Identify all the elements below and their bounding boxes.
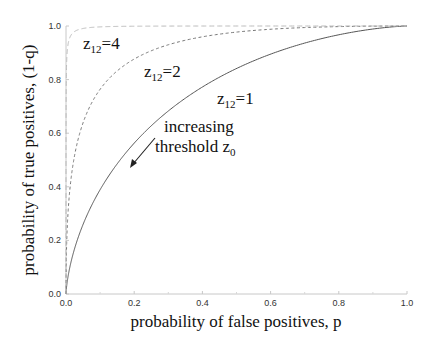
y-tick-label: 0.4 bbox=[48, 182, 61, 192]
threshold-arrow bbox=[130, 138, 155, 168]
x-axis-label: probability of false positives, p bbox=[130, 312, 341, 331]
curve-label-z12-4: z12=4 bbox=[83, 34, 120, 55]
y-tick-label: 0.6 bbox=[48, 128, 61, 138]
x-tick-label: 0.6 bbox=[264, 298, 277, 308]
y-tick-label: 1.0 bbox=[48, 21, 61, 31]
roc-chart: 0.00.20.40.60.81.00.00.20.40.60.81.0 pro… bbox=[0, 0, 438, 348]
annotation-increasing: increasing bbox=[164, 117, 234, 136]
curve-label-z12-1: z12=1 bbox=[217, 89, 254, 110]
y-axis-label: probability of true positives, (1-q) bbox=[19, 45, 38, 276]
y-tick-label: 0.2 bbox=[48, 235, 61, 245]
roc-curve-z12-1 bbox=[66, 26, 407, 294]
roc-curve-z12-2 bbox=[66, 26, 407, 294]
roc-curve-z12-4 bbox=[66, 26, 407, 294]
y-tick-label: 0.8 bbox=[48, 75, 61, 85]
y-tick-label: 0.0 bbox=[48, 289, 61, 299]
x-tick-label: 0.4 bbox=[196, 298, 209, 308]
x-tick-label: 0.0 bbox=[60, 298, 73, 308]
x-tick-label: 0.8 bbox=[333, 298, 346, 308]
axes: 0.00.20.40.60.81.00.00.20.40.60.81.0 bbox=[48, 21, 413, 308]
curves bbox=[66, 26, 407, 294]
x-tick-label: 0.2 bbox=[128, 298, 141, 308]
curve-label-z12-2: z12=2 bbox=[144, 62, 181, 83]
x-tick-label: 1.0 bbox=[401, 298, 414, 308]
annotation-threshold: threshold z0 bbox=[155, 137, 236, 158]
